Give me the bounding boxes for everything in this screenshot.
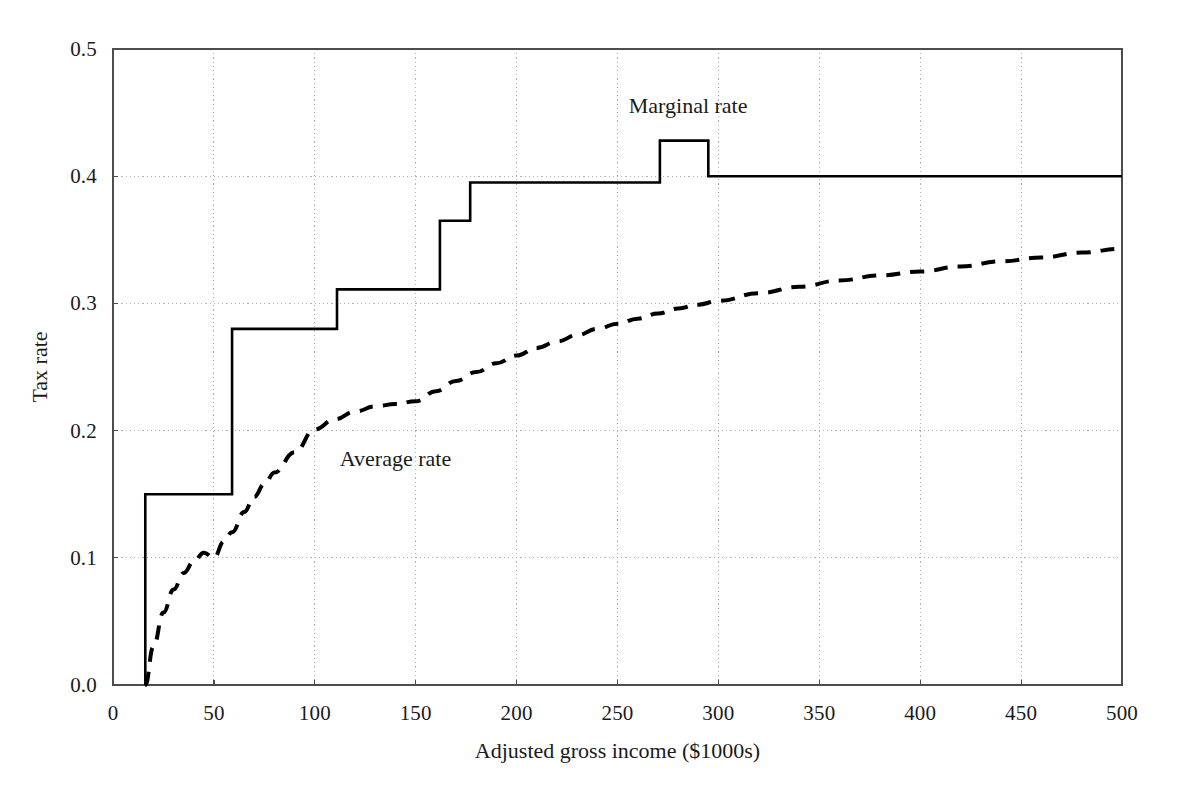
y-axis-title: Tax rate <box>27 331 53 402</box>
x-axis-title: Adjusted gross income ($1000s) <box>475 738 760 764</box>
chart-canvas <box>0 0 1186 795</box>
data-series-group <box>145 141 1122 685</box>
x-tick-label: 400 <box>904 701 936 726</box>
x-tick-label: 250 <box>601 701 633 726</box>
marginal-rate-line <box>145 141 1122 685</box>
gridlines-group <box>113 49 1122 685</box>
marginal-rate-annotation: Marginal rate <box>629 93 748 119</box>
average-rate-line <box>145 249 1122 685</box>
x-tick-label: 50 <box>203 701 224 726</box>
y-tick-label: 0.1 <box>0 545 97 570</box>
x-tick-label: 500 <box>1106 701 1138 726</box>
y-tick-label: 0.2 <box>0 418 97 443</box>
y-tick-label: 0.5 <box>0 37 97 62</box>
axis-frame <box>113 49 1122 685</box>
x-tick-label: 450 <box>1005 701 1037 726</box>
x-tick-label: 0 <box>108 701 119 726</box>
tax-rate-chart-figure: 0.00.10.20.30.40.5 050100150200250300350… <box>0 0 1186 795</box>
x-tick-label: 300 <box>702 701 734 726</box>
y-tick-label: 0.0 <box>0 673 97 698</box>
x-tick-label: 350 <box>803 701 835 726</box>
y-tick-label: 0.3 <box>0 291 97 316</box>
plot-border <box>113 49 1122 685</box>
x-tick-label: 150 <box>400 701 432 726</box>
y-tick-label: 0.4 <box>0 164 97 189</box>
average-rate-annotation: Average rate <box>340 446 451 472</box>
x-tick-label: 100 <box>299 701 331 726</box>
x-tick-label: 200 <box>501 701 533 726</box>
